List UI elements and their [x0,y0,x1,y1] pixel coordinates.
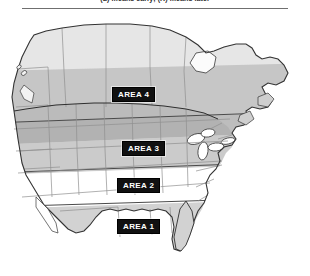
figure-caption-clip: (L) means early; (R) means later [0,0,310,7]
area-label-1: AREA 1 [117,219,160,234]
horizontal-rule [22,8,288,9]
figure-caption: (L) means early; (R) means later [0,0,310,2]
area-label-3: AREA 3 [122,141,165,156]
figure-container: (L) means early; (R) means later [0,0,310,276]
area-label-4: AREA 4 [112,87,155,102]
area-label-2: AREA 2 [117,178,160,193]
map-container: AREA 4 AREA 3 AREA 2 AREA 1 [0,11,310,276]
